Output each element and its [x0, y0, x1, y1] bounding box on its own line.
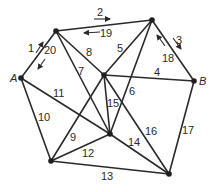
edge-label-18: 18 [162, 52, 174, 64]
edge-label-12: 12 [82, 147, 94, 159]
edge-label-7: 7 [78, 65, 84, 77]
edge-label-15: 15 [107, 97, 119, 109]
node-lower-center [107, 131, 113, 137]
edge-label-8: 8 [86, 46, 92, 58]
node-top-right [149, 17, 155, 23]
node-center [101, 72, 107, 78]
edge-label-4: 4 [154, 66, 160, 78]
edge-label-20: 20 [44, 44, 56, 56]
edge-label-16: 16 [145, 125, 157, 137]
edge-label-5: 5 [117, 42, 123, 54]
edge-label-6: 6 [129, 85, 135, 97]
arrow-19-icon [84, 32, 100, 33]
edge-label-13: 13 [101, 170, 113, 182]
edge-label-17: 17 [182, 124, 194, 136]
edge-label-3: 3 [176, 34, 182, 46]
edge-7 [56, 31, 110, 134]
edge-label-10: 10 [38, 111, 50, 123]
node-label-A: A [9, 72, 17, 84]
arrow-20-icon [38, 59, 45, 69]
edge-label-11: 11 [53, 87, 64, 99]
node-label-B: B [199, 75, 206, 87]
network-diagram: A B 1 20 2 19 3 18 4 5 6 7 8 9 10 11 12 … [0, 0, 217, 192]
edge-4 [104, 75, 194, 81]
edge-label-9: 9 [70, 131, 76, 143]
node-A [18, 75, 24, 81]
node-top-left [53, 28, 59, 34]
edge-label-14: 14 [128, 136, 140, 148]
node-B [191, 78, 197, 84]
edge-labels: 1 20 2 19 3 18 4 5 6 7 8 9 10 11 12 13 1… [28, 6, 194, 182]
arrow-1-icon [36, 42, 43, 53]
edge-label-1: 1 [28, 42, 34, 54]
node-bottom-left [48, 158, 54, 164]
edge-label-19: 19 [100, 27, 112, 39]
edge-label-2: 2 [97, 6, 103, 18]
node-bottom-right [166, 171, 172, 177]
